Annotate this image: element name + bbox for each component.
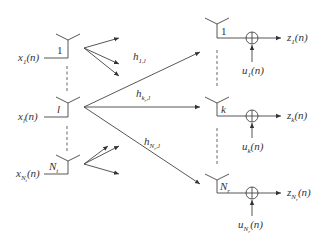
- svg-text:u1(n): u1(n): [242, 64, 264, 79]
- tx-input-Nt-label: xNt(n): [15, 167, 40, 183]
- tx-1-arrows: [84, 38, 119, 76]
- adder-Nr: [246, 187, 258, 199]
- noise-k-label: uk(n): [242, 140, 264, 155]
- tx-Nt-arrows: [84, 146, 119, 174]
- tx-antenna-l-index: l: [57, 103, 60, 115]
- mimo-diagram: 1 x1(n) l xl(n) h1,l hkr,l hNr,l Nt: [0, 0, 331, 245]
- channel-lines: [84, 52, 200, 184]
- adder-1: [246, 32, 258, 44]
- noise-Nr-label: uNr(n): [238, 218, 263, 234]
- svg-text:z1(n): z1(n): [286, 31, 308, 46]
- rx-antenna-1-index: 1: [221, 25, 227, 37]
- svg-text:hkr,l: hkr,l: [136, 87, 150, 103]
- svg-text:x1(n): x1(n): [17, 51, 40, 66]
- tx-antenna-l: [44, 97, 80, 117]
- gain-label-h1l: h1,l: [133, 50, 146, 65]
- tx-antenna-Nt-index: Nt: [48, 160, 59, 175]
- adder-k: [246, 110, 258, 122]
- svg-text:h1,l: h1,l: [133, 50, 146, 65]
- output-Nr-label: zNr(n): [286, 186, 311, 202]
- tx-antenna-1-index: 1: [57, 44, 63, 56]
- gain-label-hkl: hkr,l: [136, 87, 150, 103]
- svg-text:uk(n): uk(n): [242, 140, 264, 155]
- output-1-label: z1(n): [286, 31, 308, 46]
- rx-antenna-k-index: k: [221, 103, 227, 115]
- output-k-label: zk(n): [286, 109, 308, 124]
- tx-input-1-label: x1(n): [17, 51, 40, 66]
- svg-text:uNr(n): uNr(n): [238, 218, 263, 234]
- tx-input-l-label: xl(n): [17, 110, 38, 125]
- svg-text:zNr(n): zNr(n): [286, 186, 311, 202]
- svg-text:Nt: Nt: [48, 160, 59, 175]
- svg-text:xl(n): xl(n): [17, 110, 38, 125]
- noise-1-label: u1(n): [242, 64, 264, 79]
- svg-text:zk(n): zk(n): [286, 109, 308, 124]
- svg-text:xNt(n): xNt(n): [15, 167, 40, 183]
